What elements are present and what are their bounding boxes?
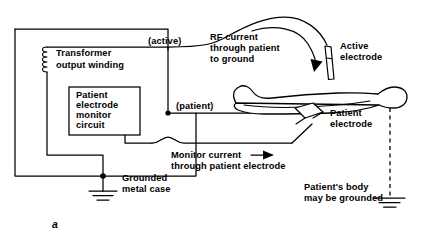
transformer-label-line2: output winding — [56, 60, 124, 70]
active-lead-label: (active) — [148, 36, 181, 46]
monitor-circuit-label-line2: electrode — [76, 100, 118, 110]
earth-ground-symbol-case — [89, 191, 117, 200]
patient-electrode-label-line2: electrode — [330, 119, 372, 129]
rf-current-label-line1: RF current — [210, 32, 258, 42]
active-electrode-label-line1: Active — [340, 41, 369, 51]
monitor-circuit-label-line4: circuit — [76, 120, 105, 130]
active-electrode-label-line2: electrode — [340, 52, 382, 62]
rf-current-label-line3: to ground — [210, 54, 254, 64]
figure-letter-label: a — [52, 218, 58, 230]
monitor-circuit-label-line3: monitor — [76, 110, 112, 120]
transformer-label-line1: Transformer — [56, 48, 112, 58]
monitor-circuit-label-line1: Patient — [76, 90, 108, 100]
grounded-case-label-line2: metal case — [122, 184, 171, 194]
monitor-current-label-line2: through patient electrode — [171, 161, 286, 171]
monitor-arrow-head — [263, 151, 274, 160]
monitor-current-arrow — [251, 151, 274, 160]
patient-lead-label: (patient) — [176, 101, 214, 111]
patient-ground-label-line2: may be grounded — [304, 193, 383, 203]
rf-current-label-line2: through patient — [210, 43, 280, 53]
grounded-case-label-line1: Grounded — [122, 173, 167, 183]
electrosurgery-diagram: Transformer output winding Patient elect… — [0, 0, 421, 246]
active-electrode-probe — [325, 46, 334, 80]
monitor-current-return-wire — [152, 124, 312, 143]
monitor-current-label-line1: Monitor current — [171, 150, 241, 160]
patient-ground-label-line1: Patient's body — [304, 182, 369, 192]
rf-arrow-head — [311, 59, 323, 72]
figure-canvas: Transformer output winding Patient elect… — [0, 0, 421, 246]
patient-electrode-label-line1: Patient — [330, 108, 362, 118]
